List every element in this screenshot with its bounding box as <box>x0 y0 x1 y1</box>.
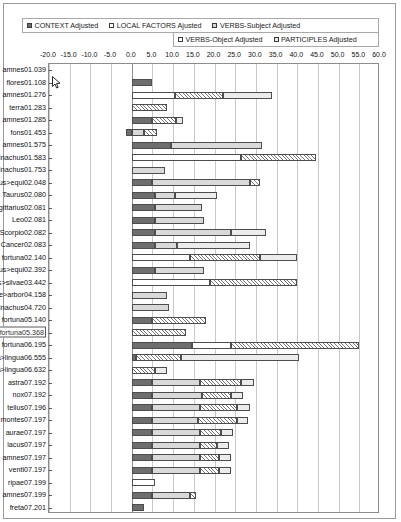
bar-segment-vsubj <box>155 242 178 249</box>
category-label[interactable]: montes07.197 <box>0 415 46 424</box>
category-label[interactable]: Philomela>lingua06.632 <box>0 365 46 374</box>
table-row[interactable] <box>49 454 378 461</box>
category-label[interactable]: Narcissus>silvae03.442 <box>0 277 46 286</box>
chart-screenshot: CONTEXT AdjustedLOCAL FACTORS AjustedVER… <box>0 0 401 522</box>
table-row[interactable] <box>49 279 378 286</box>
table-row[interactable] <box>49 142 378 149</box>
table-row[interactable] <box>49 117 378 124</box>
table-row[interactable] <box>49 217 378 224</box>
table-row[interactable] <box>49 479 378 486</box>
bar-segment-vsubj <box>152 442 200 449</box>
category-label[interactable]: amnes07.199 <box>2 490 46 499</box>
table-row[interactable] <box>49 254 378 261</box>
legend-item[interactable]: VERBS-Object Adjusted <box>178 35 263 44</box>
table-row[interactable] <box>49 467 378 474</box>
category-label[interactable]: tellus07.196 <box>7 402 46 411</box>
table-row[interactable] <box>49 242 378 249</box>
table-row[interactable] <box>49 67 378 74</box>
table-row[interactable] <box>49 442 378 449</box>
category-label[interactable]: terra01.283 <box>9 102 46 111</box>
category-label[interactable]: Cancer02.083 <box>1 240 46 249</box>
table-row[interactable] <box>49 417 378 424</box>
light-square-icon <box>274 37 279 42</box>
category-label[interactable]: amnes01.575 <box>2 140 46 149</box>
category-label[interactable]: Pyramus&Thisbe>arbor04.158 <box>0 290 46 299</box>
category-label[interactable]: Leo02.081 <box>12 215 46 224</box>
table-row[interactable] <box>49 129 378 136</box>
category-label[interactable]: fons01.453 <box>10 127 46 136</box>
table-row[interactable] <box>49 392 378 399</box>
y-tick-mark <box>49 233 52 234</box>
legend-item[interactable]: CONTEXT Adjusted <box>27 21 98 30</box>
category-label[interactable]: Inachus01.583 <box>0 152 46 161</box>
table-row[interactable] <box>49 229 378 236</box>
table-row[interactable] <box>49 304 378 311</box>
category-label[interactable]: freta07.201 <box>10 502 46 511</box>
table-row[interactable] <box>49 492 378 499</box>
category-label[interactable]: Phoebus>equi02.392 <box>0 265 46 274</box>
table-row[interactable] <box>49 342 378 349</box>
table-row[interactable] <box>49 179 378 186</box>
table-row[interactable] <box>49 267 378 274</box>
category-label[interactable]: fortuna02.140 <box>2 252 46 261</box>
category-label[interactable]: fortuna05.368 <box>0 326 46 337</box>
category-label[interactable]: ripae07.199 <box>8 477 46 486</box>
category-label[interactable]: amnes07.197 <box>2 452 46 461</box>
table-row[interactable] <box>49 429 378 436</box>
bar-segment-part <box>260 254 297 261</box>
table-row[interactable] <box>49 292 378 299</box>
bar-segment-vsubj <box>132 167 165 174</box>
hatched-square-icon <box>178 37 183 42</box>
category-label[interactable]: Phoebus>equi02.048 <box>0 177 46 186</box>
table-row[interactable] <box>49 204 378 211</box>
bar-segment-part <box>176 117 182 124</box>
y-tick-mark <box>49 158 52 159</box>
table-row[interactable] <box>49 92 378 99</box>
category-label[interactable]: amnes01.285 <box>2 115 46 124</box>
category-label[interactable]: Philomela>lingua06.555 <box>0 352 46 361</box>
table-row[interactable] <box>49 504 378 511</box>
table-row[interactable] <box>49 104 378 111</box>
legend-item[interactable]: LOCAL FACTORS Ajusted <box>109 21 201 30</box>
table-row[interactable] <box>49 329 378 336</box>
category-label[interactable]: Inachus04.720 <box>0 302 46 311</box>
category-label[interactable]: aurae07.197 <box>6 427 46 436</box>
category-label[interactable]: astra07.192 <box>8 377 46 386</box>
plot-area[interactable] <box>48 63 379 513</box>
y-tick-mark <box>49 70 52 71</box>
y-tick-mark <box>49 320 52 321</box>
table-row[interactable] <box>49 167 378 174</box>
category-label[interactable]: amnes01.276 <box>2 90 46 99</box>
legend-item[interactable]: VERBS-Subject Adjusted <box>212 21 300 30</box>
table-row[interactable] <box>49 192 378 199</box>
category-label[interactable]: Sagittarius02.081 <box>0 202 46 211</box>
y-tick-mark <box>49 445 52 446</box>
category-label[interactable]: venti07.197 <box>9 465 46 474</box>
category-label[interactable]: fortuna06.195 <box>2 340 46 349</box>
category-label[interactable]: amnes01.039 <box>2 65 46 74</box>
table-row[interactable] <box>49 79 378 86</box>
table-row[interactable] <box>49 354 378 361</box>
table-row[interactable] <box>49 379 378 386</box>
table-row[interactable] <box>49 367 378 374</box>
category-label[interactable]: Inachus01.753 <box>0 165 46 174</box>
bar-segment-part <box>237 404 249 411</box>
mouse-pointer-icon <box>52 76 60 88</box>
x-tick-label: 55.0 <box>352 51 366 58</box>
category-label[interactable]: flores01.108 <box>6 77 46 86</box>
table-row[interactable] <box>49 154 378 161</box>
bar-segment-vsubj <box>155 192 176 199</box>
category-label[interactable]: fortuna05.140 <box>2 315 46 324</box>
category-label[interactable]: lacus07.197 <box>7 440 46 449</box>
table-row[interactable] <box>49 404 378 411</box>
bar-segment-context <box>132 192 155 199</box>
bar-segment-vsubj <box>152 179 249 186</box>
legend-item[interactable]: PARTICIPLES Adjusted <box>274 35 357 44</box>
category-label[interactable]: Taurus02.080 <box>2 190 46 199</box>
bar-segment-part <box>181 354 299 361</box>
bar-segment-vobj <box>200 454 219 461</box>
table-row[interactable] <box>49 317 378 324</box>
category-label[interactable]: nox07.192 <box>12 390 46 399</box>
category-label[interactable]: Scorpio02.082 <box>0 227 46 236</box>
legend-label: CONTEXT Adjusted <box>35 21 99 30</box>
